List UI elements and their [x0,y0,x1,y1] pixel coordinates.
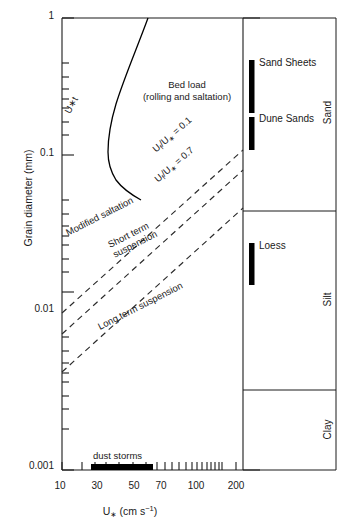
bed-load-line-1: Bed load [168,79,206,90]
threshold-velocity-curve [108,18,148,200]
uf-u-0-7-boundary [62,170,243,334]
sand-sheets-bar [249,60,255,113]
loess-label: Loess [259,240,286,251]
bed-load-line-2: (rolling and saltation) [143,91,231,102]
dune-sands-label: Dune Sands [259,113,314,124]
dust-storms-bar [91,464,153,470]
texture-class-silt: Silt [322,260,333,340]
dust-storms-label: dust storms [93,450,142,461]
texture-class-sand: Sand [322,73,333,153]
sediment-transport-chart: Grain diameter (mm) U∗ (cm s−1) 1 0.1 0.… [0,0,349,527]
bed-load-label: Bed load (rolling and saltation) [125,79,249,103]
dune-sands-bar [249,117,255,150]
loess-bar [249,243,255,285]
texture-class-clay: Clay [322,390,333,470]
y-axis-ticks [62,18,74,470]
sand-sheets-label: Sand Sheets [259,57,316,68]
transport-boundary-lines [62,150,243,372]
